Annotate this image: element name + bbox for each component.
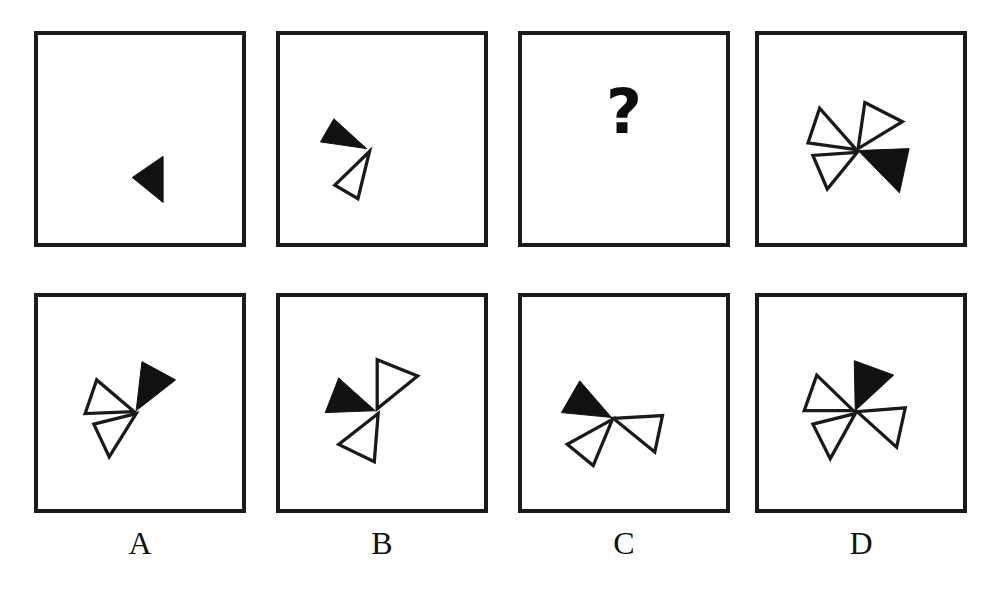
black-triangle-pointing-left: [132, 156, 163, 202]
option-panel-b[interactable]: [276, 293, 488, 513]
option-panel-c[interactable]: [518, 293, 730, 513]
sequence-panel-4-figure: [759, 35, 963, 243]
outline-triangle-pointing-down-left: [94, 414, 136, 457]
option-panel-c-figure: [522, 297, 726, 509]
outline-triangle-pointing-down-left: [567, 419, 612, 465]
option-label-a: A: [34, 527, 246, 559]
triangle-group: [320, 119, 369, 199]
outline-triangle-pointing-left: [85, 380, 134, 414]
black-triangle-pointing-left: [325, 378, 375, 413]
triangle-group: [85, 362, 175, 457]
option-label-d: D: [755, 527, 967, 559]
outline-triangle-pointing-down-left: [813, 152, 857, 189]
black-triangle-pointing-upper-left: [320, 119, 366, 149]
option-panel-a-figure: [38, 297, 242, 509]
option-panel-d-figure: [759, 297, 963, 509]
outline-triangle-pointing-right: [857, 408, 905, 447]
option-panel-b-figure: [280, 297, 484, 509]
triangle-group: [804, 361, 905, 459]
outline-triangle-pointing-left: [808, 108, 856, 149]
black-triangle-pointing-upper-left: [561, 381, 611, 418]
option-label-c: C: [518, 527, 730, 559]
outline-triangle-pointing-down-left: [813, 414, 855, 459]
sequence-panel-3-question[interactable]: ?: [518, 31, 730, 247]
sequence-panel-1[interactable]: [34, 31, 246, 247]
triangle-group: [325, 360, 417, 462]
triangle-group: [561, 381, 662, 466]
option-panel-a[interactable]: [34, 293, 246, 513]
black-triangle-pointing-right: [858, 149, 909, 193]
outline-triangle-pointing-left: [804, 375, 853, 411]
triangle-group: [132, 156, 163, 202]
outline-triangle-pointing-up: [858, 102, 902, 148]
black-triangle-pointing-up: [854, 361, 893, 411]
triangle-group: [808, 102, 909, 192]
sequence-panel-2-figure: [280, 35, 484, 243]
outline-triangle-pointing-right: [613, 416, 662, 453]
outline-triangle-pointing-up-right: [377, 360, 417, 409]
sequence-panel-4[interactable]: [755, 31, 967, 247]
sequence-panel-1-figure: [38, 35, 242, 243]
sequence-panel-2[interactable]: [276, 31, 488, 247]
outline-triangle-pointing-lower-left: [335, 152, 370, 199]
puzzle-root: ?: [0, 0, 984, 595]
option-label-b: B: [276, 527, 488, 559]
option-panel-d[interactable]: [755, 293, 967, 513]
black-triangle-pointing-up-right: [136, 362, 175, 411]
question-mark: ?: [522, 81, 726, 143]
outline-triangle-pointing-down-left: [339, 414, 378, 462]
